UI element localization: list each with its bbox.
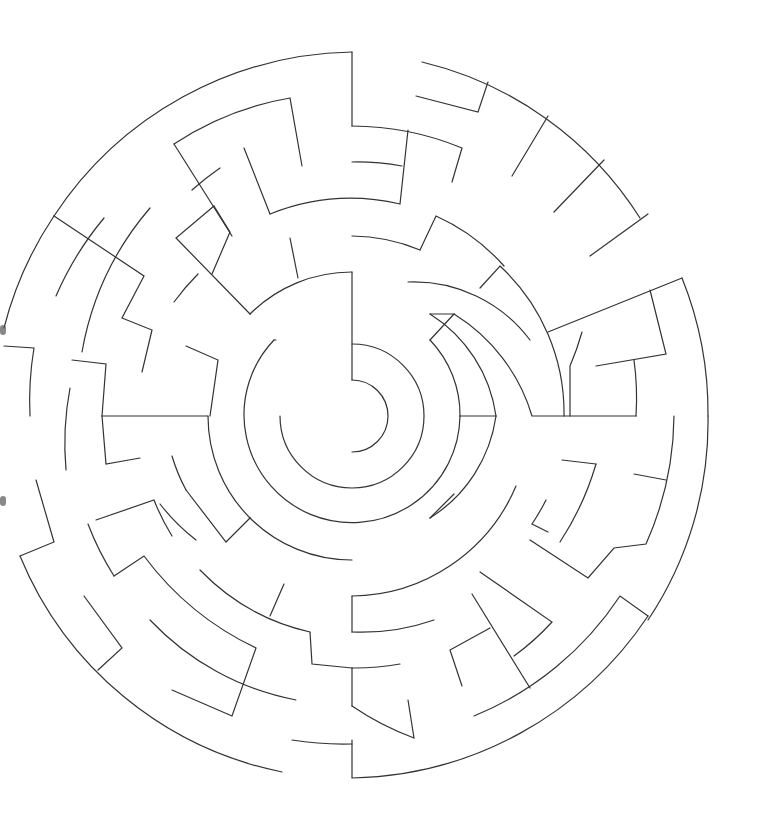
maze-wall (200, 570, 310, 632)
maze-wall (352, 380, 388, 452)
maze-wall (84, 596, 122, 670)
maze-wall (310, 632, 352, 668)
maze-wall (56, 218, 104, 296)
maze-wall (682, 278, 708, 416)
maze-wall (570, 332, 582, 416)
maze-wall (88, 524, 114, 576)
maze-wall (174, 98, 302, 166)
maze-wall (596, 290, 666, 366)
maze-wall (208, 416, 250, 518)
maze-wall (54, 216, 152, 372)
maze-wall (430, 340, 460, 416)
maze-wall (20, 480, 54, 556)
maze-wall (474, 596, 648, 716)
maze-wall (114, 556, 256, 716)
maze-wall (172, 456, 186, 490)
maze-wall (72, 360, 106, 416)
maze-wall (530, 416, 674, 578)
maze-wall (554, 160, 604, 212)
maze-wall (430, 416, 496, 518)
maze-wall (186, 346, 218, 416)
maze-wall (270, 130, 408, 214)
maze-wall (352, 664, 400, 668)
maze-wall (54, 52, 352, 216)
maze-wall (472, 594, 530, 688)
maze-wall (65, 388, 70, 470)
maze-wall (270, 584, 284, 616)
maze-wall (102, 416, 208, 464)
maze-wall (292, 740, 352, 744)
maze-wall (352, 620, 434, 632)
maze-wall (212, 206, 230, 274)
maze-wall (648, 416, 708, 620)
left-entry-marker-bottom (0, 496, 6, 506)
maze-wall (20, 556, 282, 772)
maze-wall (174, 274, 198, 302)
maze-wall (4, 346, 34, 416)
maze-wall (560, 464, 596, 542)
maze-wall (422, 62, 640, 218)
maze-wall (244, 148, 270, 214)
maze-wall (408, 282, 530, 340)
maze-walls (4, 52, 708, 778)
maze-wall (590, 214, 648, 256)
maze-wall (430, 494, 454, 518)
maze-wall (634, 474, 666, 480)
maze-wall (416, 82, 488, 112)
maze-wall (290, 238, 298, 278)
maze-wall (548, 278, 682, 332)
maze-wall (450, 628, 490, 686)
maze-wall (4, 216, 54, 328)
maze-wall (562, 460, 596, 464)
maze-wall (480, 572, 552, 656)
maze-wall (512, 116, 548, 176)
maze-wall (250, 518, 352, 560)
maze-wall (82, 208, 150, 352)
maze-wall (352, 236, 420, 250)
maze-wall (420, 216, 504, 266)
maze-wall (430, 314, 454, 340)
maze-wall (352, 700, 414, 738)
maze-wall (186, 490, 250, 542)
maze-wall (250, 272, 352, 314)
maze-wall (480, 266, 564, 416)
maze-wall (352, 162, 402, 166)
maze-wall (532, 500, 548, 532)
maze-wall (160, 504, 196, 540)
maze-wall (454, 314, 636, 416)
maze-wall (634, 360, 637, 416)
left-entry-marker-top (0, 325, 6, 335)
circular-maze (0, 0, 758, 822)
maze-wall (176, 206, 250, 314)
maze-wall (150, 620, 296, 700)
